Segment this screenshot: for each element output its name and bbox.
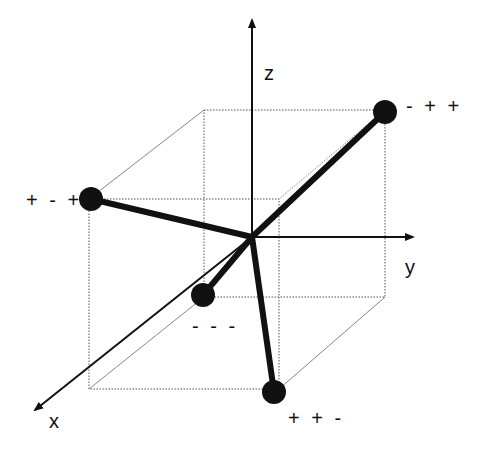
cube-front-face (89, 199, 279, 389)
axes (35, 20, 413, 410)
vector-ppm (252, 237, 274, 392)
vector-mpp (252, 112, 385, 237)
node-pmp (79, 187, 103, 211)
vertex-label-mpp: - + + (406, 95, 462, 117)
y-axis-label: y (405, 256, 415, 278)
z-axis-label: z (264, 62, 274, 84)
vectors (91, 112, 385, 392)
vector-pmp (91, 199, 252, 237)
node-mmm (191, 283, 215, 307)
vertex-label-pmp: + - + (26, 189, 82, 211)
node-mpp (373, 100, 397, 124)
vertex-label-ppm: + + - (288, 407, 344, 429)
cube-edge-top-left (89, 110, 204, 199)
cube-diagram: z y x - + + + - + - - - + + - (0, 0, 481, 449)
vertex-label-mmm: - - - (192, 315, 238, 337)
x-axis-label: x (49, 410, 59, 432)
cube-edge-bottom-left (89, 297, 204, 389)
node-ppm (262, 380, 286, 404)
cube-edge-bottom-right (279, 297, 385, 389)
